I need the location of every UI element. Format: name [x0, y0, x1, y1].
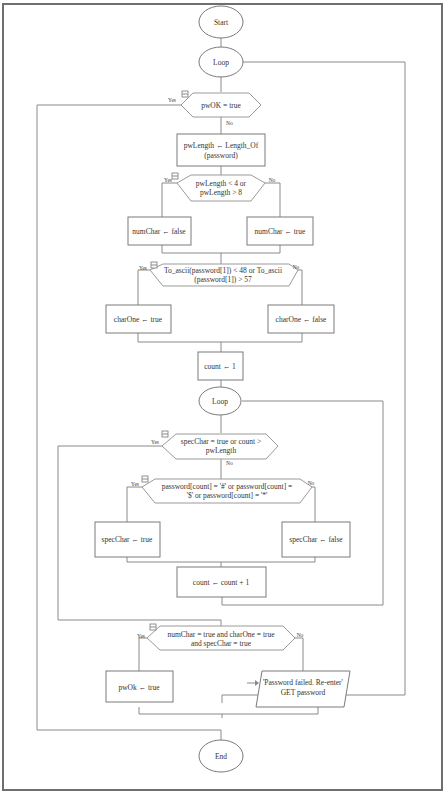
decision-length: pwLength < 4 or pwLength > 8 Yes No: [164, 173, 276, 201]
charone-true-label: charOne ← true: [114, 315, 163, 324]
decision-ascii: To_ascii(password[1]) < 48 or To_ascii (…: [139, 262, 300, 286]
io-password-failed: 'Password failed. Re-enter' GET password: [255, 671, 350, 707]
decision-loop-exit-line2: pwLength: [206, 446, 237, 455]
decision-length-line1: pwLength < 4 or: [196, 179, 247, 188]
output-failed-line2: GET password: [281, 688, 326, 697]
output-failed-line1: 'Password failed. Re-enter': [263, 678, 344, 687]
decision-pwok-label: pwOK = true: [201, 101, 241, 110]
yes-label: Yes: [137, 633, 145, 639]
specchar-true-label: specChar ← true: [102, 535, 153, 544]
start-label: Start: [214, 18, 229, 27]
charone-false-label: charOne ← false: [276, 315, 327, 324]
numchar-false-label: numChar ← false: [132, 227, 186, 236]
decision-special-char: password[count] = '#' or password[count]…: [131, 476, 315, 503]
decision-final-line2: and specChar = true: [191, 639, 252, 648]
yes-label: Yes: [131, 481, 139, 487]
decision-special-line2: '$' or password[count] = '*': [187, 491, 269, 500]
specchar-false-label: specChar ← false: [289, 535, 343, 544]
outer-loop-node: Loop: [199, 47, 243, 77]
decision-length-line2: pwLength > 8: [200, 188, 242, 197]
decision-final: numChar = true and charOne = true and sp…: [137, 624, 304, 650]
yes-label: Yes: [168, 97, 176, 103]
arrow-icon: [255, 680, 259, 686]
start-terminal: Start: [199, 6, 243, 38]
no-label: No: [226, 120, 233, 126]
process-charone-false: charOne ← false: [268, 305, 334, 333]
count-increment-label: count ← count + 1: [193, 578, 250, 587]
decision-final-line1: numChar = true and charOne = true: [167, 630, 275, 639]
process-pwok-true: pwOk ← true: [106, 671, 173, 702]
no-label: No: [293, 264, 300, 270]
decision-ascii-line1: To_ascii(password[1]) < 48 or To_ascii: [164, 266, 282, 275]
decision-special-line1: password[count] = '#' or password[count]…: [162, 482, 293, 491]
yes-label: Yes: [164, 177, 172, 183]
pwok-true-label: pwOk ← true: [118, 683, 160, 692]
end-terminal: End: [199, 740, 243, 772]
assign-length: pwLength ← Length_Of (password): [177, 134, 265, 166]
decision-pwok: pwOK = true Yes No: [168, 91, 261, 126]
process-specchar-true: specChar ← true: [95, 522, 160, 557]
decision-loop-exit-line1: specChar = true or count >: [181, 437, 261, 446]
assign-length-line2: (password): [204, 151, 238, 160]
decision-loop-exit: specChar = true or count > pwLength Yes …: [151, 431, 278, 466]
assign-length-line1: pwLength ← Length_Of: [184, 141, 259, 150]
process-numchar-true: numChar ← true: [247, 217, 313, 245]
no-label: No: [269, 177, 276, 183]
outer-loop-label: Loop: [213, 58, 229, 67]
process-count-init: count ← 1: [198, 352, 243, 380]
yes-label: Yes: [139, 265, 147, 271]
end-label: End: [215, 752, 227, 761]
no-label: No: [226, 460, 233, 466]
numchar-true-label: numChar ← true: [255, 227, 306, 236]
process-specchar-false: specChar ← false: [282, 522, 350, 557]
yes-label: Yes: [151, 439, 159, 445]
no-label: No: [297, 632, 304, 638]
no-label: No: [308, 480, 315, 486]
process-numchar-false: numChar ← false: [128, 217, 191, 245]
inner-loop-label: Loop: [212, 397, 228, 406]
count-init-label: count ← 1: [204, 362, 236, 371]
decision-ascii-line2: (password[1]) > 57: [194, 275, 252, 284]
process-charone-true: charOne ← true: [106, 305, 171, 333]
flowchart-canvas: Start Loop pwOK = true Yes No pwLength ←…: [0, 0, 447, 798]
process-count-increment: count ← count + 1: [177, 567, 266, 597]
inner-loop-node: Loop: [199, 387, 241, 415]
